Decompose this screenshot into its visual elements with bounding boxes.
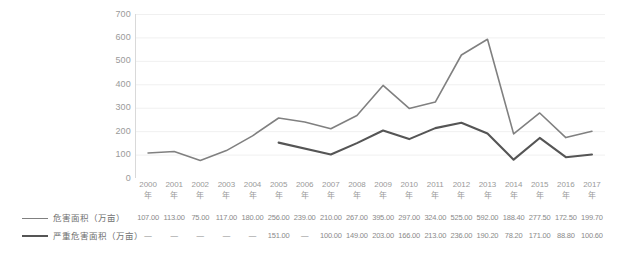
plot-area bbox=[135, 14, 605, 178]
x-axis-tick-label: 2013年 bbox=[474, 180, 500, 208]
table-cell: 78.20 bbox=[501, 231, 527, 241]
x-tick-year: 2016 bbox=[553, 180, 579, 190]
x-axis-tick-label: 2000年 bbox=[135, 180, 161, 208]
table-cell: 180.00 bbox=[239, 213, 265, 223]
x-tick-unit: 年 bbox=[527, 191, 553, 201]
table-cell: 100.00 bbox=[318, 231, 344, 241]
table-cell: — bbox=[213, 231, 239, 241]
x-axis-tick-label: 2015年 bbox=[527, 180, 553, 208]
gridlines bbox=[135, 15, 605, 156]
x-tick-year: 2007 bbox=[318, 180, 344, 190]
table-cell: 213.00 bbox=[422, 231, 448, 241]
x-tick-year: 2005 bbox=[266, 180, 292, 190]
legend-label: 危害面积（万亩） bbox=[53, 213, 125, 223]
table-cell: 277.50 bbox=[527, 213, 553, 223]
x-tick-unit: 年 bbox=[370, 191, 396, 201]
x-tick-year: 2011 bbox=[422, 180, 448, 190]
legend-label: 严重危害面积（万亩） bbox=[53, 231, 143, 241]
x-tick-year: 2010 bbox=[396, 180, 422, 190]
x-tick-year: 2004 bbox=[239, 180, 265, 190]
table-values-severe-damage-area: —————151.00—100.00149.00203.00166.00213.… bbox=[135, 231, 605, 241]
table-cell: 203.00 bbox=[370, 231, 396, 241]
table-cell: 166.00 bbox=[396, 231, 422, 241]
legend-item-damage-area[interactable]: 危害面积（万亩） bbox=[0, 213, 135, 223]
x-tick-unit: 年 bbox=[579, 191, 605, 201]
x-tick-year: 2017 bbox=[579, 180, 605, 190]
table-row: 危害面积（万亩） 107.00113.0075.00117.00180.0025… bbox=[0, 210, 622, 226]
table-cell: — bbox=[135, 231, 161, 241]
table-cell: 149.00 bbox=[344, 231, 370, 241]
table-cell: 100.60 bbox=[579, 231, 605, 241]
table-cell: 188.40 bbox=[501, 213, 527, 223]
y-axis-tick-label: 500 bbox=[103, 56, 131, 65]
legend-item-severe-damage-area[interactable]: 严重危害面积（万亩） bbox=[0, 231, 135, 241]
x-axis-tick-label: 2001年 bbox=[161, 180, 187, 208]
table-cell: 236.00 bbox=[448, 231, 474, 241]
y-axis-tick-label: 100 bbox=[103, 150, 131, 159]
y-axis-tick-label: 700 bbox=[103, 10, 131, 19]
x-tick-unit: 年 bbox=[501, 191, 527, 201]
x-tick-year: 2014 bbox=[501, 180, 527, 190]
x-axis-tick-label: 2010年 bbox=[396, 180, 422, 208]
x-tick-year: 2009 bbox=[370, 180, 396, 190]
table-cell: 267.00 bbox=[344, 213, 370, 223]
x-tick-unit: 年 bbox=[266, 191, 292, 201]
table-values-damage-area: 107.00113.0075.00117.00180.00256.00239.0… bbox=[135, 213, 605, 223]
table-cell: — bbox=[239, 231, 265, 241]
table-cell: 256.00 bbox=[266, 213, 292, 223]
x-axis-tick-label: 2003年 bbox=[213, 180, 239, 208]
x-axis-tick-label: 2005年 bbox=[266, 180, 292, 208]
x-tick-unit: 年 bbox=[553, 191, 579, 201]
table-cell: 210.00 bbox=[318, 213, 344, 223]
x-tick-year: 2013 bbox=[474, 180, 500, 190]
x-tick-year: 2008 bbox=[344, 180, 370, 190]
table-cell: 151.00 bbox=[266, 231, 292, 241]
table-row: 严重危害面积（万亩） —————151.00—100.00149.00203.0… bbox=[0, 228, 622, 244]
x-tick-unit: 年 bbox=[292, 191, 318, 201]
table-cell: 592.00 bbox=[474, 213, 500, 223]
table-cell: 172.50 bbox=[553, 213, 579, 223]
x-tick-year: 2000 bbox=[135, 180, 161, 190]
series-line-damage-area bbox=[148, 39, 592, 160]
x-axis-tick-label: 2009年 bbox=[370, 180, 396, 208]
table-cell: 107.00 bbox=[135, 213, 161, 223]
x-axis-tick-label: 2014年 bbox=[501, 180, 527, 208]
x-axis-tick-label: 2008年 bbox=[344, 180, 370, 208]
table-cell: 88.80 bbox=[553, 231, 579, 241]
x-tick-unit: 年 bbox=[239, 191, 265, 201]
table-cell: 117.00 bbox=[213, 213, 239, 223]
chart-canvas bbox=[135, 14, 605, 178]
table-cell: 525.00 bbox=[448, 213, 474, 223]
table-cell: 324.00 bbox=[422, 213, 448, 223]
x-axis-tick-label: 2011年 bbox=[422, 180, 448, 208]
chart-figure: 0100200300400500600700 2000年2001年2002年20… bbox=[0, 0, 622, 259]
table-cell: 171.00 bbox=[527, 231, 553, 241]
table-cell: 395.00 bbox=[370, 213, 396, 223]
x-axis-tick-label: 2006年 bbox=[292, 180, 318, 208]
legend-swatch-icon bbox=[22, 235, 48, 237]
y-axis-tick-label: 400 bbox=[103, 80, 131, 89]
x-axis-tick-label: 2016年 bbox=[553, 180, 579, 208]
x-axis-tick-label: 2007年 bbox=[318, 180, 344, 208]
x-tick-unit: 年 bbox=[344, 191, 370, 201]
x-tick-unit: 年 bbox=[474, 191, 500, 201]
y-axis: 0100200300400500600700 bbox=[103, 14, 131, 178]
x-tick-unit: 年 bbox=[187, 191, 213, 201]
x-axis-tick-label: 2002年 bbox=[187, 180, 213, 208]
table-cell: 297.00 bbox=[396, 213, 422, 223]
x-tick-unit: 年 bbox=[135, 191, 161, 201]
y-axis-tick-label: 600 bbox=[103, 33, 131, 42]
x-tick-year: 2006 bbox=[292, 180, 318, 190]
y-axis-tick-label: 0 bbox=[103, 174, 131, 183]
x-tick-unit: 年 bbox=[318, 191, 344, 201]
x-tick-year: 2003 bbox=[213, 180, 239, 190]
x-axis-tick-label: 2012年 bbox=[448, 180, 474, 208]
table-cell: — bbox=[161, 231, 187, 241]
data-table: 危害面积（万亩） 107.00113.0075.00117.00180.0025… bbox=[0, 208, 622, 252]
x-tick-unit: 年 bbox=[448, 191, 474, 201]
x-tick-unit: 年 bbox=[161, 191, 187, 201]
x-tick-year: 2012 bbox=[448, 180, 474, 190]
table-cell: 75.00 bbox=[187, 213, 213, 223]
legend-swatch-icon bbox=[22, 218, 48, 219]
x-tick-unit: 年 bbox=[396, 191, 422, 201]
